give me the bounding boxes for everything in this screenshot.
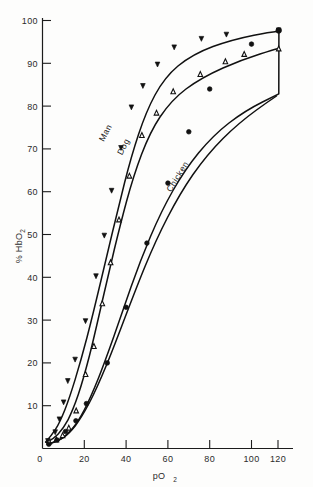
y-tick-label: 80 — [27, 102, 38, 112]
y-tick-label: 10 — [27, 401, 38, 411]
x-tick-label: 40 — [121, 454, 132, 464]
y-tick-label: 30 — [27, 316, 38, 326]
y-tick-label: 100 — [22, 16, 38, 26]
series-annotations: Man Dog Chicken — [97, 122, 191, 193]
x-tick-marks — [84, 440, 278, 449]
curve-dog — [47, 49, 279, 443]
y-tick-label-zero: 0 — [37, 454, 42, 464]
curve-chicken-upper — [49, 96, 277, 444]
x-axis-title: pO 2 — [153, 471, 177, 483]
x-tick-label: 60 — [162, 454, 173, 464]
y-tick-label: 40 — [27, 273, 38, 283]
x-tick-labels: 20 40 60 80 100 120 — [79, 454, 286, 464]
y-tick-label: 60 — [27, 187, 38, 197]
series-label-chicken: Chicken — [164, 159, 191, 193]
axis-lines — [43, 18, 294, 449]
x-axis-title-sub: 2 — [173, 476, 177, 483]
series-label-dog: Dog — [115, 137, 132, 157]
oxygen-dissociation-chart: 100 90 80 70 60 50 40 30 20 10 0 20 40 6… — [0, 0, 313, 487]
x-tick-label: 80 — [204, 454, 215, 464]
x-tick-label: 20 — [79, 454, 90, 464]
y-axis-title-sub: 2 — [19, 229, 26, 233]
y-tick-marks — [43, 21, 52, 406]
y-tick-labels: 100 90 80 70 60 50 40 30 20 10 0 — [22, 16, 43, 464]
x-tick-label: 120 — [270, 454, 286, 464]
y-axis-title: % HbO 2 — [14, 229, 26, 263]
y-tick-label: 70 — [27, 144, 38, 154]
curve-man — [46, 31, 279, 442]
x-tick-label: 100 — [243, 454, 259, 464]
series-label-man: Man — [97, 122, 114, 143]
x-axis-title-text: pO — [153, 471, 166, 481]
chart-figure: 100 90 80 70 60 50 40 30 20 10 0 20 40 6… — [0, 0, 313, 487]
curve-chicken — [49, 32, 279, 445]
y-tick-label: 20 — [27, 358, 38, 368]
markers-man — [46, 28, 281, 444]
y-tick-label: 50 — [27, 230, 38, 240]
y-tick-label: 90 — [27, 59, 38, 69]
y-axis-title-text: % HbO — [14, 233, 24, 264]
